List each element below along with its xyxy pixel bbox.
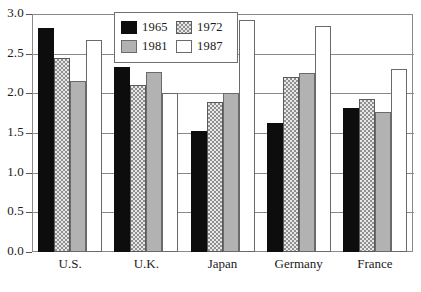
y-axis-tick: 2.0 — [0, 93, 32, 94]
legend-row: 1981 1987 — [121, 37, 231, 56]
bar — [239, 20, 255, 252]
bar — [299, 73, 315, 252]
y-tick-label: 0.5 — [7, 203, 24, 219]
y-axis-tick: 0.0 — [0, 252, 32, 253]
x-axis-label: France — [337, 256, 413, 272]
x-axis-label: Japan — [184, 256, 260, 272]
legend-item-1965: 1965 — [121, 20, 176, 35]
bar — [146, 72, 162, 252]
bar-group — [267, 14, 331, 252]
legend-label-1972: 1972 — [197, 20, 223, 35]
bar — [207, 102, 223, 252]
legend-item-1981: 1981 — [121, 39, 176, 54]
bar — [391, 69, 407, 252]
bar — [343, 108, 359, 252]
x-axis-label: U.S. — [32, 256, 108, 272]
legend-item-1972: 1972 — [176, 20, 231, 35]
y-tick-label: 0.0 — [7, 243, 24, 259]
y-tick-label: 1.0 — [7, 164, 24, 180]
bar — [267, 123, 283, 252]
legend-swatch-1981-icon — [121, 40, 137, 53]
bar — [114, 67, 130, 252]
y-axis-tick: 2.5 — [0, 54, 32, 55]
bar-group — [343, 14, 407, 252]
legend-swatch-1972-icon — [176, 21, 192, 34]
x-axis-label: U.K. — [108, 256, 184, 272]
legend-swatch-1965-icon — [121, 21, 137, 34]
y-axis-tick: 1.5 — [0, 133, 32, 134]
y-axis-tick: 0.5 — [0, 212, 32, 213]
bar — [86, 40, 102, 252]
y-axis-tick: 1.0 — [0, 173, 32, 174]
legend: 1965 1972 1981 1987 — [114, 12, 238, 63]
bar — [54, 58, 70, 252]
legend-label-1965: 1965 — [142, 20, 168, 35]
legend-swatch-1987-icon — [176, 40, 192, 53]
y-tick-label: 2.5 — [7, 45, 24, 61]
x-axis: U.S.U.K.JapanGermanyFrance — [32, 256, 413, 280]
y-tick-label: 3.0 — [7, 5, 24, 21]
bar — [315, 26, 331, 252]
y-axis-tick: 3.0 — [0, 14, 32, 15]
bar — [375, 112, 391, 252]
bar — [162, 93, 178, 252]
bar — [223, 93, 239, 252]
x-axis-label: Germany — [261, 256, 337, 272]
bar — [283, 77, 299, 252]
bar — [359, 99, 375, 252]
bar — [191, 131, 207, 252]
bar-chart: 0.00.51.01.52.02.53.0 U.S.U.K.JapanGerma… — [0, 0, 421, 292]
legend-item-1987: 1987 — [176, 39, 231, 54]
legend-label-1981: 1981 — [142, 39, 168, 54]
bar — [130, 85, 146, 252]
y-tick-mark — [26, 252, 32, 253]
y-tick-label: 1.5 — [7, 124, 24, 140]
bar-group — [38, 14, 102, 252]
bar — [38, 28, 54, 253]
bar — [70, 81, 86, 252]
y-tick-label: 2.0 — [7, 84, 24, 100]
legend-label-1987: 1987 — [197, 39, 223, 54]
legend-row: 1965 1972 — [121, 18, 231, 37]
